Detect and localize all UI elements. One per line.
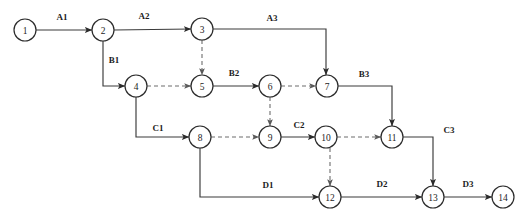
edge-label-B3: B3	[359, 69, 370, 79]
node-12[interactable]: 12	[319, 186, 341, 208]
node-label-7: 7	[325, 82, 330, 92]
edge-label-D3: D3	[463, 179, 474, 189]
node-3[interactable]: 3	[191, 18, 213, 40]
edge-label-layer: A1A2A3B1B2B3C1C2C3D1D2D3	[57, 11, 474, 190]
node-label-1: 1	[23, 26, 28, 36]
network-canvas: 1234567891011121314 A1A2A3B1B2B3C1C2C3D1…	[0, 0, 528, 223]
edge-label-C3: C3	[444, 125, 455, 135]
node-label-8: 8	[198, 133, 203, 143]
node-10[interactable]: 10	[315, 126, 337, 148]
edge-label-A3: A3	[267, 13, 278, 23]
node-label-12: 12	[325, 193, 335, 203]
node-2[interactable]: 2	[92, 19, 114, 41]
node-label-9: 9	[268, 133, 273, 143]
node-label-5: 5	[200, 82, 205, 92]
node-label-4: 4	[134, 82, 139, 92]
edge-A2	[114, 29, 191, 30]
node-13[interactable]: 13	[422, 186, 444, 208]
node-label-10: 10	[321, 133, 331, 143]
edge-layer	[36, 29, 492, 197]
node-6[interactable]: 6	[259, 75, 281, 97]
node-11[interactable]: 11	[381, 126, 403, 148]
node-label-3: 3	[200, 25, 205, 35]
node-label-2: 2	[101, 26, 106, 36]
edge-label-C1: C1	[153, 123, 164, 133]
node-7[interactable]: 7	[316, 75, 338, 97]
node-1[interactable]: 1	[14, 19, 36, 41]
node-5[interactable]: 5	[191, 75, 213, 97]
edge-C3	[403, 137, 433, 186]
edge-label-D1: D1	[263, 180, 274, 190]
node-label-13: 13	[428, 193, 438, 203]
node-14[interactable]: 14	[492, 186, 514, 208]
edge-label-C2: C2	[294, 120, 305, 130]
node-label-6: 6	[268, 82, 273, 92]
edge-label-B1: B1	[109, 55, 120, 65]
node-label-14: 14	[498, 193, 508, 203]
node-label-11: 11	[387, 133, 396, 143]
network-diagram: 1234567891011121314 A1A2A3B1B2B3C1C2C3D1…	[0, 0, 528, 223]
node-8[interactable]: 8	[189, 126, 211, 148]
edge-label-D2: D2	[377, 179, 388, 189]
edge-label-B2: B2	[229, 68, 240, 78]
edge-B3	[338, 86, 392, 126]
node-9[interactable]: 9	[259, 126, 281, 148]
node-4[interactable]: 4	[125, 75, 147, 97]
edge-label-A1: A1	[57, 12, 68, 22]
edge-label-A2: A2	[139, 11, 150, 21]
edge-D1	[200, 148, 319, 197]
